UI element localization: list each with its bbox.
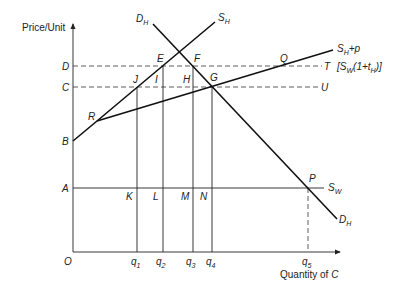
point-P: P bbox=[309, 173, 316, 184]
supply-label: SH bbox=[218, 12, 231, 25]
point-I: I bbox=[155, 74, 158, 85]
price-label-D: D bbox=[62, 61, 69, 72]
point-J: J bbox=[132, 74, 139, 85]
point-U: U bbox=[321, 82, 329, 93]
tariff-label: [SW(1+tH)] bbox=[336, 61, 382, 74]
x-axis-title: Quantity of C bbox=[280, 269, 339, 280]
point-F: F bbox=[194, 53, 201, 64]
trade-policy-diagram: Price/Unit Quantity of C O D C B A DH SH… bbox=[0, 0, 408, 295]
demand-label-top: DH bbox=[136, 13, 149, 26]
point-Q: Q bbox=[280, 53, 288, 64]
price-label-C: C bbox=[62, 82, 70, 93]
point-T: T bbox=[324, 61, 331, 72]
demand-label-bottom: DH bbox=[339, 214, 352, 227]
demand-curve-DH bbox=[153, 24, 337, 219]
q5-label: q5 bbox=[302, 256, 312, 269]
q4-label: q4 bbox=[206, 256, 216, 269]
price-label-B: B bbox=[62, 136, 69, 147]
origin-label: O bbox=[64, 256, 72, 267]
y-axis-title: Price/Unit bbox=[22, 22, 66, 33]
supply-curve-SH-plus-p bbox=[97, 50, 333, 121]
q3-label: q3 bbox=[186, 256, 196, 269]
point-L: L bbox=[153, 191, 159, 202]
supply-plus-p-label: SH+p bbox=[337, 43, 361, 56]
point-E: E bbox=[157, 53, 164, 64]
point-R: R bbox=[88, 111, 95, 122]
point-M: M bbox=[181, 191, 190, 202]
q2-label: q2 bbox=[156, 256, 166, 269]
supply-curve-SH bbox=[73, 22, 215, 141]
price-label-A: A bbox=[61, 183, 69, 194]
point-H: H bbox=[183, 74, 191, 85]
world-supply-label: SW bbox=[328, 182, 343, 195]
point-G: G bbox=[210, 72, 218, 83]
point-K: K bbox=[126, 191, 134, 202]
q1-label: q1 bbox=[131, 256, 141, 269]
point-N: N bbox=[200, 191, 208, 202]
